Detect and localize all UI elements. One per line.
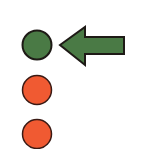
left-arrow-icon	[60, 27, 124, 65]
green-indicator-light	[23, 31, 52, 60]
status-diagram	[0, 0, 154, 149]
red-indicator-light	[23, 120, 52, 149]
red-indicator-light	[23, 76, 52, 105]
